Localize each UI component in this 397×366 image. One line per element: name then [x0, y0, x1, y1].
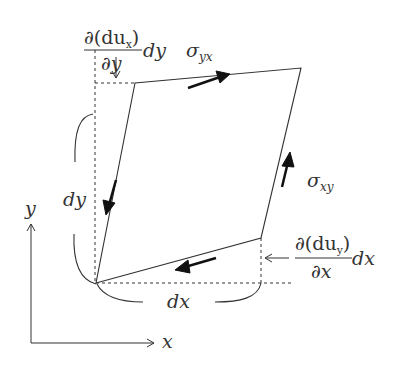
shear-strain-diagram: ∂(dux) ∂y dy σyx σxy ∂(duy) ∂x dx dy dx …	[0, 0, 397, 366]
dy-label: dy	[63, 188, 86, 210]
dx-label: dx	[167, 290, 190, 312]
svg-text:∂(duy): ∂(duy)	[295, 232, 350, 257]
svg-text:∂x: ∂x	[311, 260, 332, 282]
svg-text:∂(dux): ∂(dux)	[84, 26, 139, 51]
svg-text:∂y: ∂y	[101, 52, 122, 74]
right-displacement-label: ∂(duy) ∂x dx	[295, 232, 375, 282]
svg-text:dy: dy	[143, 39, 166, 61]
coordinate-axes	[31, 224, 154, 343]
axis-y-label: y	[24, 197, 36, 219]
deformed-element	[96, 68, 301, 283]
sigma-yx-label: σyx	[186, 39, 213, 64]
svg-text:dx: dx	[352, 247, 375, 269]
sigma-xy-label: σxy	[307, 169, 334, 194]
axis-x-label: x	[162, 330, 173, 352]
top-displacement-label: ∂(dux) ∂y dy	[84, 26, 166, 74]
